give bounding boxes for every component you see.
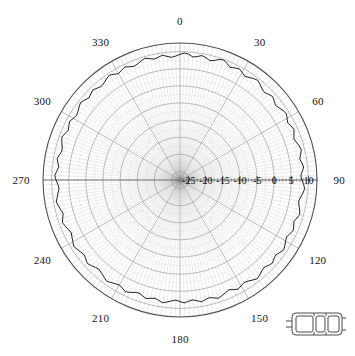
angular-tick-label-0: 0: [177, 15, 183, 27]
angular-tick-label-120: 120: [309, 254, 326, 266]
radial-tick-label--15: -15: [216, 175, 229, 186]
angular-tick-label-30: 30: [254, 36, 265, 48]
angular-tick-label-60: 60: [312, 95, 323, 107]
angular-tick-label-210: 210: [92, 312, 109, 324]
angular-tick-label-90: 90: [334, 174, 345, 186]
angular-tick-label-330: 330: [92, 36, 109, 48]
radial-tick-label-10: 10: [303, 175, 313, 186]
angular-tick-label-240: 240: [34, 254, 51, 266]
radial-tick-label--10: -10: [233, 175, 246, 186]
angular-tick-label-150: 150: [251, 312, 268, 324]
radial-tick-label--20: -20: [199, 175, 212, 186]
radial-tick-label-5: 5: [289, 175, 294, 186]
angular-tick-label-300: 300: [34, 95, 51, 107]
angular-tick-label-270: 270: [13, 174, 30, 186]
car-top-view-icon: [283, 308, 351, 344]
polar-plot-figure: 0306090120150180210240270300330 -25-20-1…: [0, 0, 355, 356]
polar-plot-canvas: [0, 0, 355, 356]
radial-tick-label-0: 0: [272, 175, 277, 186]
radial-tick-label--5: -5: [253, 175, 261, 186]
radial-tick-label--25: -25: [182, 175, 195, 186]
angular-tick-label-180: 180: [172, 333, 189, 345]
